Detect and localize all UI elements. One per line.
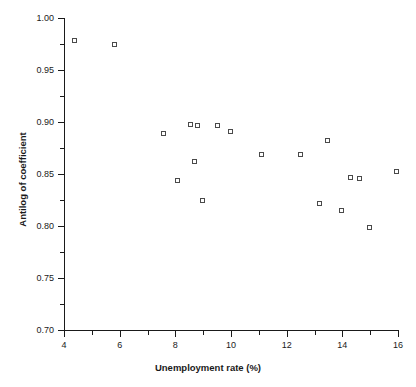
x-tick (148, 331, 149, 335)
data-point (339, 208, 344, 213)
data-point (192, 159, 197, 164)
x-tick (175, 331, 176, 337)
x-tick (231, 331, 232, 337)
x-tick (398, 331, 399, 337)
x-tick-label: 14 (337, 340, 347, 350)
data-point (357, 176, 362, 181)
x-tick (92, 331, 93, 335)
y-tick-label: 0.70 (18, 325, 54, 335)
x-tick (342, 331, 343, 337)
data-point (112, 42, 117, 47)
data-point (72, 38, 77, 43)
y-tick-label: 0.95 (18, 65, 54, 75)
x-tick (203, 331, 204, 335)
data-point (298, 152, 303, 157)
y-tick-label: 1.00 (18, 13, 54, 23)
data-point (348, 175, 353, 180)
data-point (325, 138, 330, 143)
data-point (200, 198, 205, 203)
data-point (259, 152, 264, 157)
y-axis-title: Antilog of coefficient (17, 100, 28, 260)
plot-area (64, 18, 398, 330)
scatter-chart: 46810121416 0.700.750.800.850.900.951.00… (0, 0, 416, 387)
x-tick-label: 4 (61, 340, 66, 350)
data-point (367, 225, 372, 230)
x-tick-label: 12 (282, 340, 292, 350)
x-tick-label: 10 (226, 340, 236, 350)
y-tick (58, 330, 64, 331)
x-tick (370, 331, 371, 335)
x-tick (259, 331, 260, 335)
data-point (228, 129, 233, 134)
x-tick (120, 331, 121, 337)
data-point (195, 123, 200, 128)
data-point (394, 169, 399, 174)
data-point (188, 122, 193, 127)
x-tick (287, 331, 288, 337)
data-point (161, 131, 166, 136)
x-tick (64, 331, 65, 337)
data-point (215, 123, 220, 128)
x-tick-label: 16 (393, 340, 403, 350)
data-point (175, 178, 180, 183)
x-tick-label: 6 (117, 340, 122, 350)
x-tick-label: 8 (173, 340, 178, 350)
data-point (317, 201, 322, 206)
x-tick (315, 331, 316, 335)
x-axis-title: Unemployment rate (%) (0, 362, 416, 373)
y-tick-label: 0.75 (18, 273, 54, 283)
